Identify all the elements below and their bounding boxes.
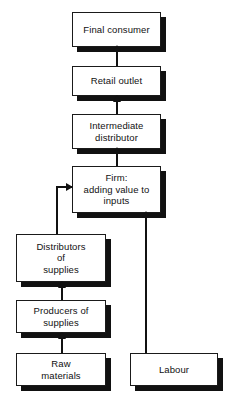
arrowhead-producers-to-distributors <box>58 281 66 288</box>
node-firm[interactable]: Firm: adding value to inputs <box>72 166 161 213</box>
node-intermediate-distributor[interactable]: Intermediate distributor <box>72 114 161 149</box>
node-producers-of-supplies[interactable]: Producers of supplies <box>16 300 106 333</box>
arrowhead-intermediate-to-retail <box>113 95 121 102</box>
arrowhead-retail-to-consumer <box>113 45 121 52</box>
node-retail-outlet[interactable]: Retail outlet <box>72 66 161 96</box>
node-label-intermediate-distributor: Intermediate distributor <box>87 120 145 143</box>
node-labour[interactable]: Labour <box>130 353 218 386</box>
connector-distributors-to-firm-vertical <box>56 186 58 236</box>
node-distributors-of-supplies[interactable]: Distributors of supplies <box>16 234 106 282</box>
arrowhead-firm-to-intermediate <box>113 147 121 154</box>
node-label-labour: Labour <box>157 364 191 376</box>
node-label-final-consumer: Final consumer <box>81 24 151 36</box>
arrowhead-labour-to-firm <box>142 211 150 218</box>
node-label-firm: Firm: adding value to inputs <box>82 172 152 207</box>
value-chain-diagram: Final consumer Retail outlet Intermediat… <box>0 0 230 393</box>
arrowhead-raw-to-producers <box>58 332 66 339</box>
node-label-retail-outlet: Retail outlet <box>89 75 144 87</box>
node-label-producers-of-supplies: Producers of supplies <box>31 305 90 328</box>
node-label-distributors-of-supplies: Distributors of supplies <box>34 241 87 276</box>
node-label-raw-materials: Raw materials <box>39 358 82 381</box>
node-raw-materials[interactable]: Raw materials <box>16 353 106 386</box>
arrowhead-distributors-to-firm <box>66 183 73 191</box>
connector-labour-to-firm <box>145 213 147 355</box>
node-final-consumer[interactable]: Final consumer <box>72 12 161 47</box>
